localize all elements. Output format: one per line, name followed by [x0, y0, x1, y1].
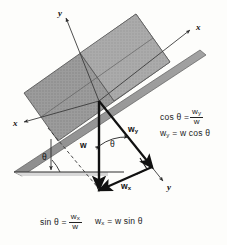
sine-identity: wx = w sin θ [95, 217, 143, 227]
sine-formula-block: sin θ = wx w wx = w sin θ [40, 213, 143, 231]
axis-label-x-upper-right: x [196, 22, 201, 32]
axis-label-y-top: y [58, 8, 62, 18]
cosine-identity: wy = w cos θ [160, 129, 210, 139]
vector-label-wx: wx [121, 181, 131, 191]
cosine-identity-rhs: = w cos θ [172, 128, 210, 138]
axis-label-y-lower-right: y [167, 182, 171, 192]
cosine-numerator-sub: y [198, 109, 201, 116]
sine-denominator: w [69, 222, 82, 231]
angle-label-vector: θ [110, 139, 115, 149]
weight-component-wy [99, 101, 152, 167]
physics-diagram: y x x y w wy wx θ θ cos θ = wy w wy = w … [0, 0, 227, 245]
cosine-identity-sub: y [166, 131, 169, 138]
vector-label-wy-text: w [128, 124, 135, 134]
vector-label-wy: wy [128, 124, 138, 134]
cosine-equation: cos θ = wy w [160, 108, 210, 126]
vector-label-wx-sub: x [128, 185, 131, 191]
vector-label-w-text: w [80, 140, 87, 150]
axis-label-x-lower-left: x [13, 118, 18, 128]
cosine-lhs: cos θ = [160, 113, 189, 122]
sine-fraction: wx w [69, 213, 82, 231]
cosine-fraction: wy w [190, 108, 203, 126]
vector-label-w: w [80, 140, 87, 150]
cosine-denominator: w [190, 117, 203, 126]
sine-identity-rhs: = w sin θ [107, 216, 143, 226]
vector-label-wy-sub: y [135, 128, 138, 134]
sine-lhs: sin θ = [40, 218, 67, 227]
vector-label-wx-text: w [121, 181, 128, 191]
sine-numerator: wx [69, 213, 82, 222]
cosine-numerator: wy [190, 108, 203, 117]
angle-label-incline: θ [42, 152, 47, 162]
sine-identity-sub: x [101, 219, 104, 226]
sine-numerator-sub: x [77, 214, 80, 221]
cosine-formula-block: cos θ = wy w wy = w cos θ [160, 108, 210, 139]
